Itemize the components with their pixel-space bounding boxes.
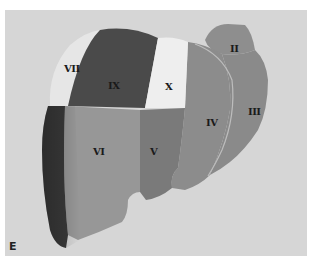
panel-letter: E [9, 241, 17, 252]
segment-label-v: V [150, 147, 157, 157]
segment-label-vi: VI [93, 147, 104, 157]
segment-label-iv: IV [206, 118, 217, 128]
segment-label-x: X [165, 82, 172, 92]
segment-label-ii: II [230, 44, 238, 54]
segment-label-vii: VII [64, 64, 80, 74]
segment-label-ix: IX [108, 81, 119, 91]
segment-label-iii: III [248, 107, 261, 117]
liver-segment-illustration [0, 0, 316, 265]
